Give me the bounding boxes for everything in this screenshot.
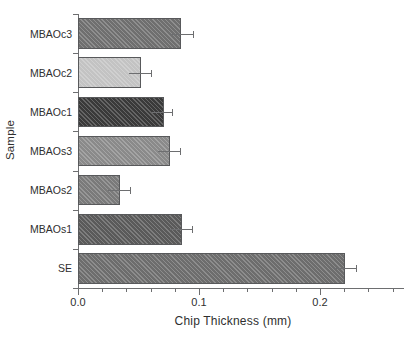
bar-row: SE — [78, 253, 404, 284]
y-tick-mark — [73, 171, 79, 172]
error-bar-line — [333, 268, 356, 269]
y-tick-label: MBAOc3 — [30, 28, 72, 40]
error-bar-line — [129, 73, 151, 74]
y-tick-mark — [73, 249, 79, 250]
y-tick-label: MBAOs3 — [30, 145, 72, 157]
y-tick-mark — [73, 131, 79, 132]
x-tick-major — [320, 289, 321, 295]
y-tick-label: MBAOs1 — [30, 223, 72, 235]
bar-row: MBAOc3 — [78, 18, 404, 49]
x-tick-major — [78, 289, 79, 295]
bar-row: MBAOc1 — [78, 97, 404, 128]
y-tick-label: SE — [58, 262, 72, 274]
error-bar-cap — [180, 148, 181, 155]
x-tick-minor — [393, 289, 394, 292]
y-tick-label: MBAOs2 — [30, 184, 72, 196]
bar-row: MBAOs3 — [78, 136, 404, 167]
y-tick-mark — [73, 14, 79, 15]
y-tick-mark — [73, 210, 79, 211]
x-tick-minor — [272, 289, 273, 292]
error-bar-cap — [172, 109, 173, 116]
bar-mbaoc3[interactable] — [78, 18, 181, 49]
x-tick-label: 0.1 — [191, 296, 206, 308]
y-tick-mark — [73, 92, 79, 93]
x-tick-minor — [296, 289, 297, 292]
bar-row: MBAOs1 — [78, 214, 404, 245]
error-bar-line — [169, 34, 193, 35]
error-bar-cap — [192, 226, 193, 233]
y-axis-title: Sample — [4, 108, 16, 172]
chart-figure: Sample Chip Thickness (mm) MBAOc3MBAOc2M… — [0, 0, 416, 344]
y-tick-mark — [73, 53, 79, 54]
bar-mbaos1[interactable] — [78, 214, 182, 245]
error-bar-cap — [193, 31, 194, 38]
bar-se[interactable] — [78, 253, 345, 284]
x-tick-minor — [344, 289, 345, 292]
error-bar-cap — [151, 70, 152, 77]
x-tick-major — [199, 289, 200, 295]
y-tick-label: MBAOc2 — [30, 67, 72, 79]
x-tick-minor — [247, 289, 248, 292]
error-bar-line — [152, 112, 172, 113]
bar-row: MBAOs2 — [78, 175, 404, 206]
x-tick-minor — [126, 289, 127, 292]
error-bar-cap — [356, 265, 357, 272]
x-axis-title: Chip Thickness (mm) — [78, 314, 388, 328]
y-tick-label: MBAOc1 — [30, 106, 72, 118]
error-bar-line — [108, 190, 130, 191]
error-bar-cap — [130, 187, 131, 194]
x-tick-minor — [102, 289, 103, 292]
error-bar-line — [170, 229, 192, 230]
x-tick-label: 0.2 — [312, 296, 327, 308]
x-tick-minor — [175, 289, 176, 292]
x-tick-minor — [223, 289, 224, 292]
x-tick-label: 0.0 — [70, 296, 85, 308]
x-tick-minor — [368, 289, 369, 292]
bar-row: MBAOc2 — [78, 57, 404, 88]
plot-area: MBAOc3MBAOc2MBAOc1MBAOs3MBAOs2MBAOs1SE — [78, 14, 404, 288]
x-tick-minor — [151, 289, 152, 292]
bar-mbaos3[interactable] — [78, 136, 170, 167]
error-bar-line — [158, 151, 180, 152]
